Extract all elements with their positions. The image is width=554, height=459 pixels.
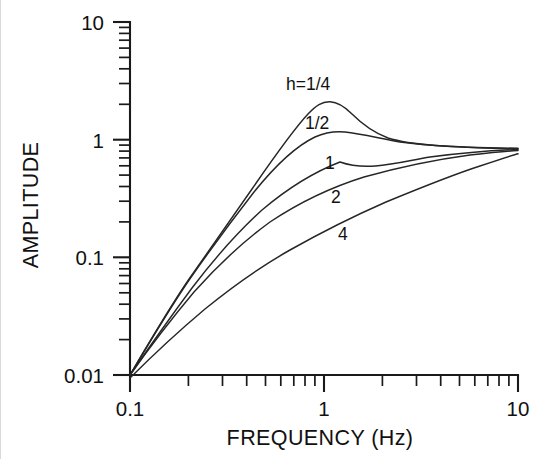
curve-label-h-0-5: 1/2 [305,113,329,133]
y-axis-title: AMPLITUDE [19,142,43,269]
y-tick-label-10: 10 [81,11,104,34]
curve-label-h-2: 2 [331,187,341,207]
y-tick-label-1: 1 [93,129,104,152]
curve-h-1 [130,150,518,376]
x-tick-label-10: 10 [507,397,530,420]
x-tick-label-0-1: 0.1 [116,397,145,420]
amplitude-vs-frequency-plot: 10 1 0.1 0.01 0.1 1 10 FREQUENCY (Hz) AM… [0,0,554,459]
x-tick-label-1: 1 [318,397,329,420]
curve-label-h-0-25: h=1/4 [286,74,331,94]
curve-label-h-1: 1 [325,153,335,173]
curve-h-0-25 [130,102,518,375]
y-tick-label-0-1: 0.1 [76,246,105,269]
scan-edge-artifact [0,0,1,459]
chart-figure: 10 1 0.1 0.01 0.1 1 10 FREQUENCY (Hz) AM… [0,0,554,459]
curve-h-4 [130,154,518,378]
y-axis-minor-ticks [119,27,130,339]
curve-h-2 [130,151,518,376]
y-tick-label-0-01: 0.01 [64,364,104,387]
x-axis-title: FREQUENCY (Hz) [227,426,414,450]
y-axis-major-ticks [113,22,130,375]
curve-label-h-4: 4 [338,224,348,244]
curve-group [130,102,518,378]
x-axis-minor-ticks [188,375,509,386]
